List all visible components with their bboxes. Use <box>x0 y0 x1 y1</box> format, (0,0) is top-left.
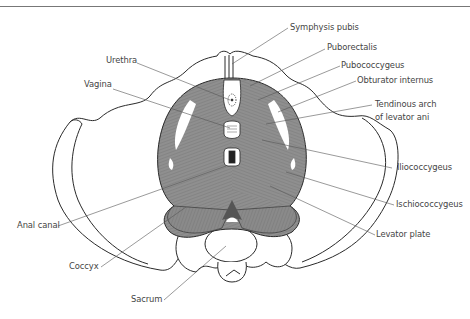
label-tendinous-arch-1: Tendinous arch <box>375 99 436 109</box>
label-urethra: Urethra <box>106 55 137 65</box>
label-coccyx: Coccyx <box>69 261 99 271</box>
label-levator-plate: Levator plate <box>376 229 430 239</box>
label-puborectalis: Puborectalis <box>327 42 377 52</box>
label-tendinous-arch-2: of levator ani <box>375 112 429 122</box>
pelvic-floor-diagram <box>0 0 470 319</box>
label-vagina: Vagina <box>84 79 112 89</box>
label-sacrum: Sacrum <box>131 294 162 304</box>
label-pubococcygeus: Pubococcygeus <box>341 60 404 70</box>
label-iliococcygeus: Iliococcygeus <box>397 162 452 172</box>
label-ischiococcygeus: Ischiococcygeus <box>396 199 463 209</box>
label-obturator-internus: Obturator internus <box>357 75 433 85</box>
vagina <box>224 121 240 139</box>
label-anal-canal: Anal canal <box>17 220 60 230</box>
label-symphysis-pubis: Symphysis pubis <box>290 22 359 32</box>
anal-canal <box>224 148 240 166</box>
